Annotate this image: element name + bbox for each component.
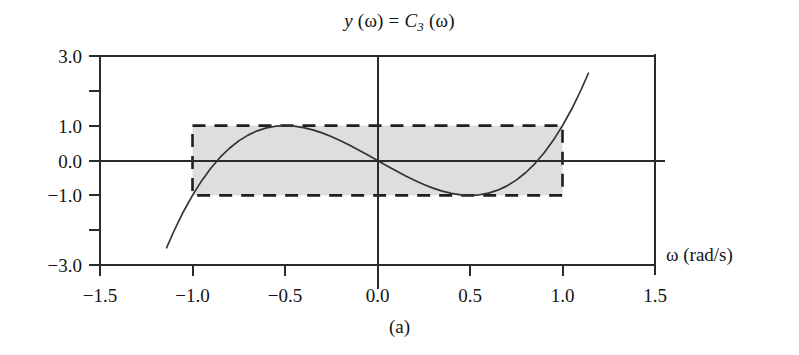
x-tick-label: 1.5	[643, 285, 667, 306]
y-tick-label: −3.0	[48, 255, 82, 276]
x-tick-labels: −1.5−1.0−0.50.00.51.01.5	[83, 285, 667, 306]
y-tick-label: −1.0	[48, 185, 82, 206]
x-tick-label: 1.0	[551, 285, 575, 306]
y-tick-label: 0.0	[58, 151, 82, 172]
x-axis-label: ω (rad/s)	[666, 244, 733, 266]
x-tick-label: −1.0	[175, 285, 209, 306]
x-tick-label: −1.5	[83, 285, 117, 306]
x-tick-label: −0.5	[268, 285, 302, 306]
y-tick-labels: −3.0−1.00.01.03.0	[48, 46, 82, 276]
x-tick-label: 0.5	[458, 285, 482, 306]
x-tick-label: 0.0	[366, 285, 390, 306]
chart-canvas: −3.0−1.00.01.03.0 −1.5−1.0−0.50.00.51.01…	[0, 0, 799, 355]
figure-panel: y (ω) = C3 (ω) −3.0−1.00.01.03.0 −1.5−1.…	[0, 0, 799, 355]
y-tick-label: 3.0	[58, 46, 82, 67]
subfigure-caption: (a)	[0, 316, 799, 338]
y-tick-label: 1.0	[58, 116, 82, 137]
